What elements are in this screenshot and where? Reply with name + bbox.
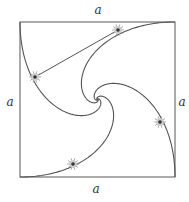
bug-icon	[154, 116, 166, 127]
bug-icon	[112, 24, 124, 35]
pursuit-line	[35, 30, 118, 77]
spiral-from-top-right	[81, 22, 175, 103]
side-label-bottom: a	[92, 182, 99, 196]
side-label-left: a	[6, 95, 13, 109]
spiral-from-bottom-left	[20, 96, 114, 177]
spiral-from-top-left	[20, 22, 101, 116]
side-label-right: a	[178, 95, 185, 109]
spiral-from-bottom-right	[94, 83, 175, 177]
pursuit-diagram: a a a a	[0, 0, 189, 202]
bug-icon	[29, 71, 41, 82]
spiral-paths	[20, 22, 175, 177]
side-label-top: a	[94, 3, 101, 17]
